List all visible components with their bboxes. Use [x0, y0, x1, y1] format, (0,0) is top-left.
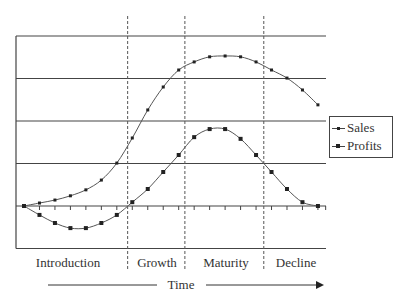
stage-label-introduction: Introduction: [36, 255, 100, 271]
legend-label-sales: Sales: [347, 120, 374, 136]
profits-marker-icon: [332, 142, 345, 150]
stage-dividers: [128, 16, 264, 271]
legend-item-profits: Profits: [332, 138, 382, 154]
stage-label-growth: Growth: [137, 255, 177, 271]
sales-marker-icon: [332, 124, 345, 132]
time-axis-label: Time: [168, 277, 195, 293]
legend: Sales Profits: [329, 116, 393, 158]
series-lines: [22, 54, 320, 230]
legend-label-profits: Profits: [347, 138, 382, 154]
gridlines: [16, 36, 326, 249]
stage-label-maturity: Maturity: [203, 255, 249, 271]
stage-label-decline: Decline: [276, 255, 316, 271]
x-axis-ticks: [39, 206, 325, 210]
legend-item-sales: Sales: [332, 120, 374, 136]
